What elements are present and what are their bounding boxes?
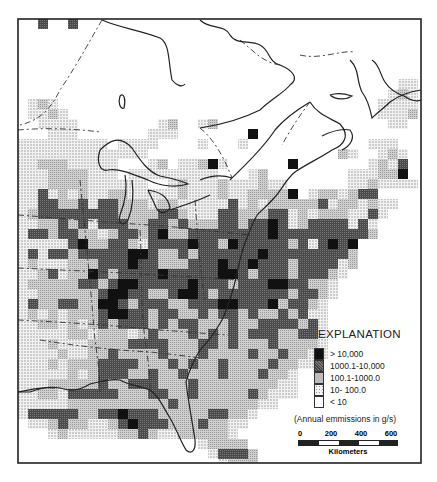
grid-cell [18, 289, 28, 299]
legend-swatch-dark-gray [314, 360, 324, 372]
grid-cell [228, 259, 238, 269]
grid-cell [58, 339, 68, 349]
grid-cell [278, 249, 288, 259]
grid-cell [78, 279, 88, 289]
grid-cell [68, 359, 78, 369]
grid-cell [178, 259, 188, 269]
grid-cell [378, 99, 388, 109]
grid-cell [158, 279, 168, 289]
grid-cell [78, 329, 88, 339]
grid-cell [378, 179, 388, 189]
grid-cell [258, 399, 268, 409]
grid-cell [108, 329, 118, 339]
grid-cell [248, 369, 258, 379]
grid-cell [108, 189, 118, 199]
grid-cell [138, 289, 148, 299]
grid-cell [38, 139, 48, 149]
grid-cell [38, 19, 48, 29]
grid-cell [78, 369, 88, 379]
grid-cell [208, 399, 218, 409]
grid-cell [128, 289, 138, 299]
grid-cell [308, 239, 318, 249]
grid-cell [108, 279, 118, 289]
grid-cell [58, 159, 68, 169]
grid-cell [88, 169, 98, 179]
grid-cell [318, 279, 328, 289]
grid-cell [198, 359, 208, 369]
grid-cell [248, 269, 258, 279]
grid-cell [268, 189, 278, 199]
grid-cell [48, 409, 58, 419]
grid-cell [228, 349, 238, 359]
grid-cell [398, 159, 408, 169]
grid-cell [138, 139, 148, 149]
grid-cell [58, 419, 68, 429]
grid-cell [148, 399, 158, 409]
grid-cell [178, 159, 188, 169]
grid-cell [78, 179, 88, 189]
grid-cell [108, 259, 118, 269]
grid-cell [268, 259, 278, 269]
grid-cell [328, 289, 338, 299]
grid-cell [98, 199, 108, 209]
grid-cell [248, 449, 258, 459]
grid-cell [258, 279, 268, 289]
grid-cell [158, 379, 168, 389]
grid-cell [118, 269, 128, 279]
grid-cell [68, 179, 78, 189]
grid-cell [48, 119, 58, 129]
grid-cell [108, 209, 118, 219]
grid-cell [68, 159, 78, 169]
grid-cell [118, 289, 128, 299]
grid-cell [268, 359, 278, 369]
grid-cell [288, 269, 298, 279]
grid-cell [108, 299, 118, 309]
grid-cell [198, 299, 208, 309]
grid-cell [168, 369, 178, 379]
grid-cell [258, 209, 268, 219]
grid-cell [158, 239, 168, 249]
grid-cell [218, 329, 228, 339]
grid-cell [38, 269, 48, 279]
grid-cell [168, 179, 178, 189]
grid-cell [178, 239, 188, 249]
grid-cell [58, 149, 68, 159]
grid-cell [118, 419, 128, 429]
grid-cell [238, 369, 248, 379]
grid-cell [108, 319, 118, 329]
grid-cell [28, 379, 38, 389]
grid-cell [338, 149, 348, 159]
grid-cell [278, 219, 288, 229]
grid-cell [108, 199, 118, 209]
grid-cell [58, 329, 68, 339]
legend-label: 100.1-1000.0 [330, 373, 380, 383]
grid-cell [58, 229, 68, 239]
grid-cell [18, 359, 28, 369]
grid-cell [368, 159, 378, 169]
grid-cell [248, 249, 258, 259]
grid-cell [88, 249, 98, 259]
grid-cell [18, 339, 28, 349]
grid-cell [328, 259, 338, 269]
grid-cell [208, 179, 218, 189]
grid-cell [378, 209, 388, 219]
grid-cell [268, 179, 278, 189]
grid-cell [158, 249, 168, 259]
grid-cell [168, 259, 178, 269]
grid-cell [108, 349, 118, 359]
grid-cell [258, 329, 268, 339]
grid-cell [148, 349, 158, 359]
grid-cell [278, 209, 288, 219]
grid-cell [98, 299, 108, 309]
grid-cell [208, 289, 218, 299]
grid-cell [128, 139, 138, 149]
grid-cell [38, 329, 48, 339]
grid-cell [68, 399, 78, 409]
grid-cell [98, 189, 108, 199]
grid-cell [218, 339, 228, 349]
legend-items: > 10,000 1000.1-10,000 100.1-1000.0 10- … [314, 348, 422, 408]
grid-cell [318, 269, 328, 279]
grid-cell [68, 319, 78, 329]
grid-cell [148, 319, 158, 329]
grid-cell [208, 419, 218, 429]
